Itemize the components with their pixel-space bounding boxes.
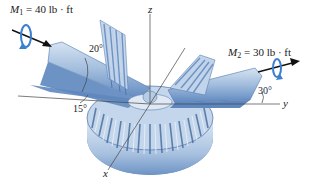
- z-axis-label: z: [148, 4, 152, 15]
- moment-m2-label: M2 = 30 lb · ft: [228, 47, 291, 60]
- moment-m1-arrow: [12, 25, 52, 49]
- left-pinion-shaft: [30, 20, 150, 108]
- y-axis-label: y: [283, 98, 288, 109]
- m2-value: = 30 lb · ft: [244, 46, 291, 58]
- angle-30-label: 30°: [258, 86, 272, 96]
- m1-subscript: 1: [19, 8, 23, 17]
- m1-value: = 40 lb · ft: [26, 3, 73, 15]
- angle-15-label: 15°: [73, 104, 87, 114]
- right-pinion-shaft: [168, 55, 262, 108]
- gear-diagram: M1 = 40 lb · ft M2 = 30 lb · ft z y x 20…: [0, 0, 309, 187]
- m2-symbol: M: [228, 46, 237, 58]
- moment-m2-arrow: [258, 58, 300, 80]
- angle-20-label: 20°: [89, 44, 103, 54]
- m2-subscript: 2: [237, 51, 241, 60]
- x-axis-label: x: [103, 168, 108, 179]
- m1-symbol: M: [10, 3, 19, 15]
- moment-m1-label: M1 = 40 lb · ft: [10, 4, 73, 17]
